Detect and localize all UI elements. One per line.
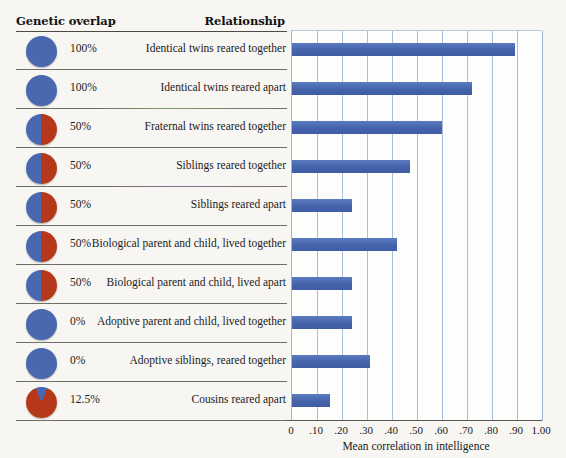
genetic-overlap-percent: 50% <box>70 276 91 288</box>
bar <box>292 160 410 173</box>
x-axis-tick-label: .40 <box>384 424 398 436</box>
x-axis-tick-label: .10 <box>309 424 323 436</box>
table-row: 50%Biological parent and child, lived to… <box>0 226 290 265</box>
gridline <box>517 31 518 421</box>
x-axis-tick-label: .90 <box>509 424 523 436</box>
genetic-overlap-pie-icon <box>26 387 57 418</box>
relationship-label: Siblings reared together <box>176 159 286 171</box>
heritability-figure: Genetic overlap Relationship 100%Identic… <box>0 0 566 458</box>
x-axis-title: Mean correlation in intelligence <box>291 440 541 452</box>
genetic-overlap-pie-icon <box>26 192 57 223</box>
column-header-relationship: Relationship <box>205 14 285 28</box>
genetic-overlap-percent: 50% <box>70 198 91 210</box>
table-row: 50%Siblings reared together <box>0 148 290 187</box>
genetic-overlap-percent: 0% <box>70 315 85 327</box>
relationship-label: Siblings reared apart <box>191 198 286 210</box>
gridline <box>542 31 543 421</box>
genetic-overlap-percent: 50% <box>70 237 91 249</box>
bar <box>292 199 352 212</box>
genetic-overlap-pie-icon <box>26 231 57 262</box>
x-axis-tick-label: .70 <box>459 424 473 436</box>
x-axis-tick-label: .30 <box>359 424 373 436</box>
table-row: 50%Fraternal twins reared together <box>0 109 290 148</box>
table-row: 0%Adoptive siblings, reared together <box>0 343 290 382</box>
bar <box>292 277 352 290</box>
x-axis-tick-label: 1.00 <box>531 424 550 436</box>
table-row: 0%Adoptive parent and child, lived toget… <box>0 304 290 343</box>
genetic-overlap-percent: 12.5% <box>70 393 100 405</box>
genetic-overlap-percent: 50% <box>70 159 91 171</box>
x-axis-tick-label: .50 <box>409 424 423 436</box>
genetic-overlap-pie-icon <box>26 309 57 340</box>
x-axis-line <box>291 420 542 421</box>
genetic-overlap-pie-icon <box>26 153 57 184</box>
table-header-row: Genetic overlap Relationship <box>14 14 286 32</box>
genetic-overlap-pie-icon <box>26 75 57 106</box>
bar <box>292 82 472 95</box>
genetic-overlap-pie-icon <box>26 270 57 301</box>
x-axis-tick-label: .80 <box>484 424 498 436</box>
genetic-overlap-percent: 100% <box>70 81 97 93</box>
table-row: 100%Identical twins reared apart <box>0 70 290 109</box>
plot-area <box>291 30 542 421</box>
table-body: 100%Identical twins reared together100%I… <box>0 31 290 421</box>
table-row: 12.5%Cousins reared apart <box>0 382 290 421</box>
genetic-overlap-pie-icon <box>26 348 57 379</box>
x-axis-origin-tick <box>285 420 291 421</box>
genetic-overlap-table: Genetic overlap Relationship 100%Identic… <box>0 0 290 458</box>
bar <box>292 355 370 368</box>
relationship-label: Identical twins reared apart <box>161 81 286 93</box>
x-axis-tick-label: .20 <box>334 424 348 436</box>
relationship-label: Cousins reared apart <box>191 393 286 405</box>
relationship-label: Adoptive siblings, reared together <box>130 354 287 366</box>
relationship-label: Identical twins reared together <box>146 42 286 54</box>
bar <box>292 43 515 56</box>
bar <box>292 394 330 407</box>
relationship-label: Fraternal twins reared together <box>145 120 286 132</box>
bar <box>292 121 442 134</box>
table-row: 50%Siblings reared apart <box>0 187 290 226</box>
genetic-overlap-percent: 100% <box>70 42 97 54</box>
bar <box>292 238 397 251</box>
relationship-label: Biological parent and child, lived toget… <box>92 237 286 249</box>
column-header-genetic-overlap: Genetic overlap <box>16 14 116 28</box>
bar <box>292 316 352 329</box>
table-row: 100%Identical twins reared together <box>0 31 290 70</box>
genetic-overlap-pie-icon <box>26 114 57 145</box>
correlation-bar-chart: Mean correlation in intelligence 0.10.20… <box>290 0 566 458</box>
genetic-overlap-pie-icon <box>26 36 57 67</box>
x-axis-tick-label: 0 <box>288 424 294 436</box>
genetic-overlap-percent: 50% <box>70 120 91 132</box>
genetic-overlap-percent: 0% <box>70 354 85 366</box>
gridline <box>492 31 493 421</box>
relationship-label: Adoptive parent and child, lived togethe… <box>97 315 286 327</box>
row-divider <box>16 420 287 421</box>
x-axis-tick-label: .60 <box>434 424 448 436</box>
relationship-label: Biological parent and child, lived apart <box>107 276 286 288</box>
table-row: 50%Biological parent and child, lived ap… <box>0 265 290 304</box>
